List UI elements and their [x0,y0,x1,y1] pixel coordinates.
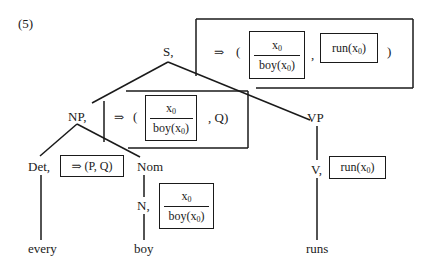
np-drs-box: x0 boy(x0) [145,95,197,141]
node-vp: VP [307,111,324,124]
node-s: S, [163,45,173,58]
np-drs-universe: x0 [166,101,176,118]
np-arrow: ⇒ [114,111,124,123]
s-arrow: ⇒ [214,46,224,58]
edge-np-nom [77,124,140,157]
s-drs-box: x0 boy(x0) [249,31,305,79]
n-drs-universe: x0 [182,189,192,206]
s-run-box: run(x0) [320,33,378,63]
drt-syntax-tree-diagram: (5) S, ⇒ ( x0 boy(x0) , run(x0) ) NP, ⇒ … [0,0,430,265]
node-n: N, [137,199,150,212]
node-det: Det, [28,160,50,173]
n-drs-box: x0 boy(x0) [159,183,214,229]
s-run-text: run(x0) [332,41,366,56]
np-open-paren: ( [133,110,137,123]
s-drs-universe: x0 [272,38,282,55]
s-comma: , [311,48,314,61]
edge-np-det [40,124,77,156]
v-annotation-text: run(x0) [341,160,375,175]
np-rest: , Q) [208,111,228,124]
v-annotation-box: run(x0) [329,156,386,179]
n-drs-condition: boy(x0) [169,207,205,224]
s-open-paren: ( [236,45,240,58]
det-annotation-text: ⇒ (P, Q) [71,159,112,174]
s-drs-condition: boy(x0) [259,56,295,73]
leaf-boy: boy [134,242,154,255]
det-annotation-box: ⇒ (P, Q) [60,155,124,177]
s-close-paren: ) [387,45,391,58]
np-drs-condition: boy(x0) [153,119,189,136]
node-v: V, [311,163,322,176]
node-nom: Nom [137,160,163,173]
node-np: NP, [68,110,86,123]
leaf-every: every [28,242,57,255]
leaf-runs: runs [306,242,328,255]
example-number: (5) [18,17,33,30]
